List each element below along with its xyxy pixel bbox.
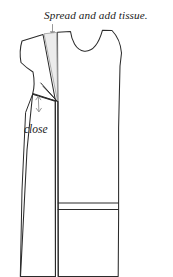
close-label: close <box>24 123 48 135</box>
left-skirt-panel <box>21 94 56 276</box>
pattern-diagram-svg: Spread and add tissue. <box>0 0 173 277</box>
pattern-alteration-figure: Spread and add tissue. <box>0 0 173 277</box>
bodice-right-body <box>58 30 122 276</box>
spread-and-add-tissue-caption: Spread and add tissue. <box>44 9 148 21</box>
